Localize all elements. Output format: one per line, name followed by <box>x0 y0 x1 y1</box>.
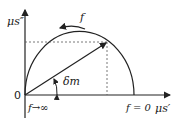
frequency-label: f <box>80 12 84 23</box>
cole-cole-diagram <box>0 0 179 123</box>
x-axis-label: μs′ <box>155 103 170 114</box>
zero-frequency-label: f = 0 <box>126 103 151 113</box>
high-frequency-label: f→∞ <box>28 103 48 113</box>
angle-arc <box>54 79 57 95</box>
origin-label: 0 <box>14 90 21 101</box>
angle-label: δm <box>63 76 80 87</box>
y-axis-label: μs″ <box>7 16 24 27</box>
frequency-arrow <box>60 26 85 29</box>
